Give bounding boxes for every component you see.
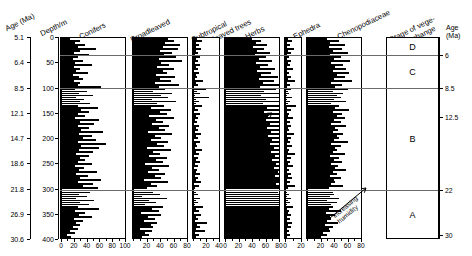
increasing-humidity-arrow [0, 0, 472, 256]
pollen-diagram: Age (Ma) Depth/m Conifers Broadleavedtre… [0, 0, 472, 256]
